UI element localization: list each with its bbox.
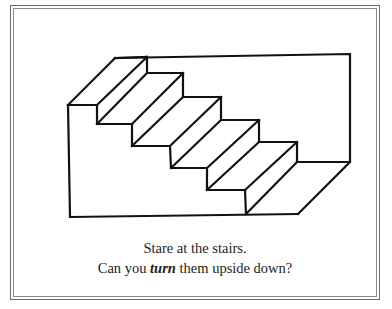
caption-emphasis: turn	[150, 260, 176, 276]
caption-line-2: Can you turn them upside down?	[13, 258, 377, 278]
caption-text: Can you	[98, 260, 150, 276]
caption-text: them upside down?	[176, 260, 292, 276]
caption-line-1: Stare at the stairs.	[13, 238, 377, 258]
